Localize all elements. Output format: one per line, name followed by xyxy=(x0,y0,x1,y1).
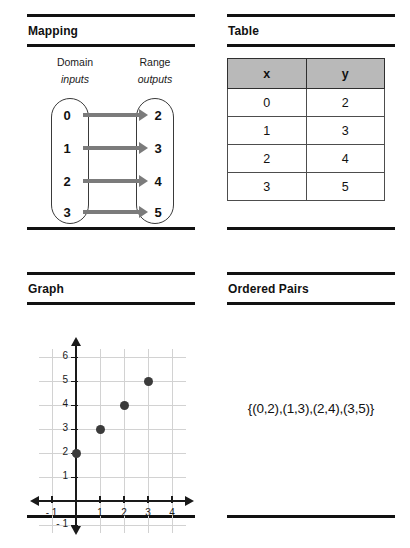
range-value-3: 5 xyxy=(151,205,165,220)
x-tick-1 xyxy=(99,496,101,503)
table-cell-x: 2 xyxy=(228,145,307,173)
y-tick-label-3: 3 xyxy=(52,422,68,433)
data-point xyxy=(72,449,81,458)
table-header-row: x y xyxy=(228,59,385,89)
table-cell-x: 0 xyxy=(228,89,307,117)
x-tick-neg1 xyxy=(51,496,53,503)
mapping-arrow-line-1 xyxy=(83,146,143,150)
x-tick-label-1: 1 xyxy=(92,507,108,518)
range-value-0: 2 xyxy=(151,108,165,123)
mapping-arrow-line-3 xyxy=(83,210,143,214)
range-value-2: 4 xyxy=(151,174,165,189)
x-axis xyxy=(37,500,187,503)
y-tick-4 xyxy=(71,405,78,407)
domain-value-3: 3 xyxy=(60,205,74,220)
mapping-arrow-head-2 xyxy=(139,175,148,187)
table-row: 2 4 xyxy=(228,145,385,173)
panel-bottom-rule xyxy=(227,227,395,230)
mapping-arrow-head-0 xyxy=(139,109,148,121)
mapping-arrow-line-0 xyxy=(83,113,143,117)
mapping-arrow-line-2 xyxy=(83,179,143,183)
gridline-v-1 xyxy=(100,349,101,533)
mapping-arrow-head-3 xyxy=(139,206,148,218)
panel-mapping: Mapping Domain inputs Range outputs 0 1 … xyxy=(27,14,195,230)
x-tick-label-2: 2 xyxy=(116,507,132,518)
table-row: 0 2 xyxy=(228,89,385,117)
panel-title-table: Table xyxy=(227,17,395,44)
gridline-v-4 xyxy=(172,349,173,533)
panel-bottom-rule xyxy=(227,515,395,518)
mapping-arrow-head-1 xyxy=(139,142,148,154)
table-cell-y: 5 xyxy=(306,173,385,201)
domain-label: Domain xyxy=(33,56,117,68)
panel-title-mapping: Mapping xyxy=(27,17,195,44)
y-tick-label-5: 5 xyxy=(52,374,68,385)
range-sublabel: outputs xyxy=(113,73,197,85)
y-tick-label-6: 6 xyxy=(52,350,68,361)
table-cell-x: 3 xyxy=(228,173,307,201)
y-tick-label-1: 1 xyxy=(52,470,68,481)
panel-graph: Graph xyxy=(27,272,195,518)
x-tick-3 xyxy=(147,496,149,503)
panel-title-graph: Graph xyxy=(27,275,195,302)
domain-sublabel: inputs xyxy=(33,73,117,85)
mapping-diagram: Domain inputs Range outputs 0 1 2 3 2 3 … xyxy=(27,47,195,227)
panel-title-ordered-pairs: Ordered Pairs xyxy=(227,275,395,302)
panel-table: Table x y 0 2 xyxy=(227,14,395,230)
table-cell-y: 2 xyxy=(306,89,385,117)
panel-bottom-rule xyxy=(27,227,195,230)
table-header-y: y xyxy=(306,59,385,89)
y-axis xyxy=(75,345,78,527)
range-label: Range xyxy=(113,56,197,68)
panel-ordered-pairs: Ordered Pairs {(0,2),(1,3),(2,4),(3,5)} xyxy=(227,272,395,518)
table-header-x: x xyxy=(228,59,307,89)
gridline-v-2 xyxy=(124,349,125,533)
table-cell-x: 1 xyxy=(228,117,307,145)
data-point xyxy=(120,401,129,410)
x-tick-label-3: 3 xyxy=(140,507,156,518)
x-tick-4 xyxy=(171,496,173,503)
x-axis-arrow-left xyxy=(30,496,39,506)
data-point xyxy=(96,425,105,434)
y-tick-neg1 xyxy=(71,525,78,527)
table-row: 1 3 xyxy=(228,117,385,145)
range-value-1: 3 xyxy=(151,141,165,156)
table-row: 3 5 xyxy=(228,173,385,201)
table-region: x y 0 2 1 3 2 xyxy=(227,47,395,227)
x-tick-label-neg1: - 1 xyxy=(40,507,63,518)
xy-table: x y 0 2 1 3 2 xyxy=(227,58,385,201)
worksheet-page: Mapping Domain inputs Range outputs 0 1 … xyxy=(0,0,410,548)
x-tick-label-4: 4 xyxy=(164,507,180,518)
domain-value-2: 2 xyxy=(60,174,74,189)
data-point xyxy=(144,377,153,386)
ordered-pairs-set: {(0,2),(1,3),(2,4),(3,5)} xyxy=(227,401,395,416)
domain-value-1: 1 xyxy=(60,141,74,156)
ordered-pairs-region: {(0,2),(1,3),(2,4),(3,5)} xyxy=(227,305,395,515)
y-axis-arrow-down xyxy=(71,526,81,535)
x-tick-2 xyxy=(123,496,125,503)
y-tick-3 xyxy=(71,429,78,431)
y-tick-5 xyxy=(71,381,78,383)
y-tick-label-4: 4 xyxy=(52,398,68,409)
y-tick-label-2: 2 xyxy=(52,446,68,457)
table-cell-y: 3 xyxy=(306,117,385,145)
table-cell-y: 4 xyxy=(306,145,385,173)
domain-value-0: 0 xyxy=(60,108,74,123)
y-tick-1 xyxy=(71,477,78,479)
x-axis-arrow-right xyxy=(185,496,194,506)
y-tick-label-neg1: - 1 xyxy=(45,518,68,529)
y-axis-arrow-up xyxy=(71,337,81,346)
coordinate-plane: 6 5 4 3 2 1 - 1 - 1 1 2 3 4 xyxy=(27,305,195,515)
y-tick-6 xyxy=(71,357,78,359)
